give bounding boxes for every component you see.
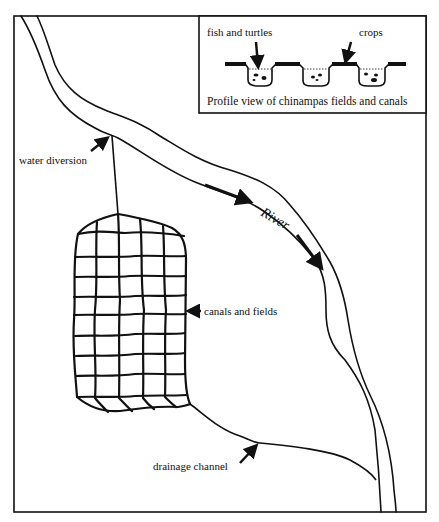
- crops-label: crops: [359, 26, 383, 38]
- drainage-channel-label: drainage channel: [153, 460, 228, 472]
- canals-and-fields-label: canals and fields: [204, 305, 277, 317]
- profile-inset: fish and turtles crops Profile view of c…: [199, 16, 426, 113]
- profile-caption: Profile view of chinampas fields and can…: [207, 95, 408, 108]
- flow-arrow-1: [205, 185, 248, 201]
- diversion-channel: [112, 136, 118, 214]
- canals-and-fields-grid: [73, 214, 190, 412]
- chinampas-diagram: River water diversion canals and fields …: [0, 0, 439, 522]
- water-diversion-label: water diversion: [19, 154, 88, 166]
- fish-and-turtles-label: fish and turtles: [207, 26, 272, 38]
- drainage-channel-arrow: [240, 447, 255, 463]
- water-diversion-arrow: [91, 139, 106, 151]
